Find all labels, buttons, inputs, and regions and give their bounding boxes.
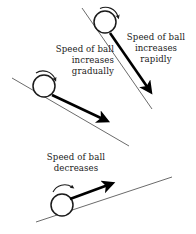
ball-steep — [94, 11, 116, 33]
caption-gentle-line-1: Speed of ball — [26, 44, 114, 55]
velocity-arrow-uphill — [70, 185, 108, 199]
caption-uphill-line-1: Speed of ball — [32, 152, 120, 163]
panel-gentle-decline — [12, 71, 129, 146]
velocity-arrow-gentle — [52, 95, 103, 119]
ball-gentle — [33, 75, 55, 97]
caption-uphill-line-2: decreases — [32, 163, 120, 174]
caption-gentle-decline: Speed of ball increases gradually — [26, 44, 114, 77]
ball-uphill — [51, 194, 73, 216]
caption-gentle-line-2: increases — [26, 55, 114, 66]
panel-incline-uphill — [36, 177, 172, 222]
caption-steep-line-2: increases — [120, 43, 192, 54]
physics-incline-diagram: Speed of ball increases rapidly Speed of… — [0, 0, 196, 234]
ramp-line-gentle — [12, 78, 129, 146]
caption-steep-line-3: rapidly — [120, 54, 192, 65]
caption-steep-line-1: Speed of ball — [120, 32, 192, 43]
caption-incline-uphill: Speed of ball decreases — [32, 152, 120, 174]
caption-gentle-line-3: gradually — [26, 66, 114, 77]
caption-steep-decline: Speed of ball increases rapidly — [120, 32, 192, 65]
spin-arrow-uphill — [53, 185, 72, 192]
